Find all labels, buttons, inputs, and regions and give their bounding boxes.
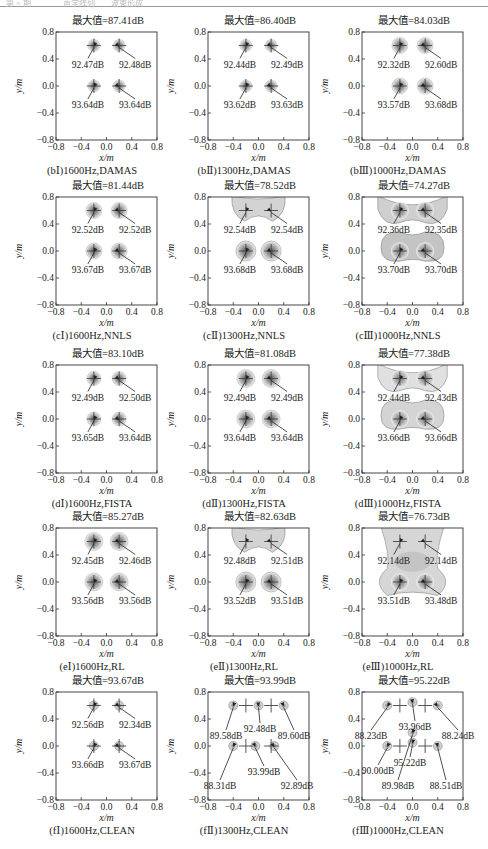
x-axis-label: x/m [404,317,419,328]
heatmap-plot: −0.8−0.8−0.4−0.40.00.00.40.40.80.8x/my/m… [12,508,172,668]
x-tick-label: 0.0 [253,802,265,812]
y-tick-label: −0.8 [343,300,360,310]
y-axis-label: y/m [319,575,330,590]
y-tick-label: −0.8 [343,795,360,805]
y-tick-label: 0.0 [42,81,54,91]
y-tick-label: 0.4 [42,387,54,397]
x-tick-label: 0.0 [407,802,419,812]
plot-panel-dIII: 最大值=77.38dB−0.8−0.8−0.4−0.40.00.00.40.40… [318,345,478,510]
x-tick-label: 0.0 [407,142,419,152]
y-tick-label: −0.8 [37,468,54,478]
source-level-label: 89.58dB [210,731,242,741]
source-level-label: 93.56dB [119,596,151,606]
source-level-label: 92.44dB [224,60,256,70]
source-level-label: 92.46dB [119,556,151,566]
x-tick-label: 0.8 [151,307,163,317]
y-tick-label: 0.0 [348,577,360,587]
y-tick-label: −0.4 [343,273,360,283]
y-tick-label: −0.8 [189,631,206,641]
y-tick-label: 0.8 [348,360,360,370]
source-level-label: 95.22dB [394,758,426,768]
y-axis-label: y/m [319,244,330,259]
x-tick-label: 0.4 [126,475,138,485]
x-tick-label: −0.4 [73,475,90,485]
y-axis-label: y/m [165,575,176,590]
source-level-label: 93.68dB [271,265,303,275]
x-tick-label: 0.4 [278,475,290,485]
x-axis-label: x/m [98,152,113,163]
source-level-label: 92.35dB [425,225,457,235]
x-tick-label: 0.0 [101,142,113,152]
y-tick-label: −0.8 [189,795,206,805]
x-tick-label: 0.8 [303,802,315,812]
y-tick-label: 0.8 [348,192,360,202]
panel-caption: (eⅠ)1600Hz,RL [12,660,172,672]
source-level-label: 88.23dB [355,731,387,741]
y-tick-label: −0.4 [189,273,206,283]
source-level-label: 93.64dB [271,433,303,443]
x-tick-label: 0.0 [101,802,113,812]
x-tick-label: 0.8 [151,802,163,812]
panel-caption: (fⅡ)1300Hz,CLEAN [164,824,324,836]
source-level-label: 88.24dB [442,731,474,741]
x-axis-label: x/m [250,485,265,496]
plot-panel-fII: 最大值=93.99dB−0.8−0.8−0.4−0.40.00.00.40.40… [164,672,324,837]
x-tick-label: 0.0 [253,142,265,152]
x-axis-label: x/m [98,317,113,328]
plot-panel-eI: 最大值=85.27dB−0.8−0.8−0.4−0.40.00.00.40.40… [12,508,172,673]
plot-panel-cII: 最大值=78.52dB−0.8−0.8−0.4−0.40.00.00.40.40… [164,177,324,342]
y-axis-label: y/m [13,739,24,754]
x-tick-label: 0.8 [151,638,163,648]
source-level-label: 92.32dB [378,60,410,70]
y-tick-label: −0.4 [189,108,206,118]
plot-panel-bII: 最大值=86.40dB−0.8−0.8−0.4−0.40.00.00.40.40… [164,12,324,177]
x-tick-label: 0.0 [407,307,419,317]
source-level-label: 92.49dB [224,393,256,403]
source-level-label: 88.51dB [430,781,462,791]
x-axis-label: x/m [404,152,419,163]
y-tick-label: 0.8 [42,687,54,697]
y-tick-label: 0.0 [348,246,360,256]
heatmap-plot: −0.8−0.8−0.4−0.40.00.00.40.40.80.8x/my/m… [164,672,324,832]
y-tick-label: 0.8 [194,27,206,37]
y-tick-label: −0.8 [189,300,206,310]
source-level-label: 92.48dB [119,60,151,70]
source-level-label: 92.51dB [271,556,303,566]
source-level-label: 92.54dB [271,225,303,235]
y-tick-label: 0.8 [348,27,360,37]
y-tick-label: 0.0 [42,741,54,751]
panel-caption: (fⅢ)1000Hz,CLEAN [318,824,478,836]
source-level-label: 89.60dB [278,731,310,741]
x-tick-label: 0.0 [101,307,113,317]
y-tick-label: −0.4 [343,441,360,451]
source-level-label: 93.67dB [72,265,104,275]
y-tick-label: −0.4 [37,441,54,451]
source-level-label: 93.51dB [271,596,303,606]
y-tick-label: 0.4 [348,219,360,229]
x-tick-label: 0.8 [457,802,469,812]
y-tick-label: 0.0 [348,81,360,91]
y-tick-label: 0.0 [42,577,54,587]
source-level-label: 92.49dB [271,393,303,403]
y-tick-label: −0.4 [343,604,360,614]
y-axis-label: y/m [13,79,24,94]
panel-caption: (bⅡ)1300Hz,DAMAS [164,164,324,176]
x-tick-label: −0.4 [73,307,90,317]
source-level-label: 93.67dB [119,265,151,275]
heatmap-plot: −0.8−0.8−0.4−0.40.00.00.40.40.80.8x/my/m… [164,12,324,172]
x-tick-label: 0.4 [126,638,138,648]
y-axis-label: y/m [165,79,176,94]
source-level-label: 93.64dB [119,100,151,110]
x-tick-label: 0.4 [126,307,138,317]
source-level-label: 93.66dB [378,433,410,443]
x-axis-label: x/m [98,485,113,496]
x-tick-label: −0.4 [73,142,90,152]
x-tick-label: 0.8 [151,475,163,485]
heatmap-plot: −0.8−0.8−0.4−0.40.00.00.40.40.80.8x/my/m… [318,12,478,172]
source-level-label: 93.99dB [248,767,280,777]
y-tick-label: −0.4 [37,273,54,283]
source-level-label: 92.44dB [378,393,410,403]
y-tick-label: −0.4 [189,604,206,614]
x-axis-label: x/m [250,648,265,659]
x-axis-label: x/m [250,317,265,328]
